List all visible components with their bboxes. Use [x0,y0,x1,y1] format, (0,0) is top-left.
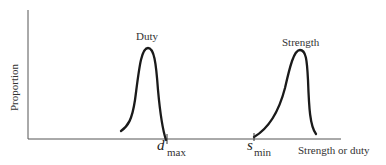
smin-symbol: s [247,137,253,154]
strength-curve [254,50,316,137]
duty-curve [121,48,166,140]
diagram-canvas [0,0,386,165]
y-axis-label: Proportion [8,64,20,111]
duty-label: Duty [136,30,158,42]
dmax-symbol: d [157,137,165,154]
strength-label: Strength [282,36,319,48]
x-axis-label: Strength or duty [298,144,370,156]
dmax-subscript: max [167,146,186,158]
smin-subscript: min [254,146,271,158]
